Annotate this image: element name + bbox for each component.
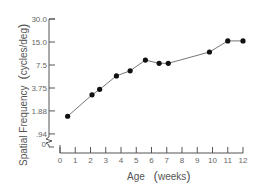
y-tick-label: .94 bbox=[36, 130, 48, 139]
svg-text:Spatial Frequency (cycle: Spatial Frequency (cycles/deg) bbox=[15, 24, 30, 166]
x-tick-label: 8 bbox=[180, 156, 185, 165]
x-tick-label: 9 bbox=[195, 156, 200, 165]
x-tick-label: 10 bbox=[208, 156, 217, 165]
data-point bbox=[128, 68, 133, 73]
y-tick-label: 1.88 bbox=[31, 107, 47, 116]
y-axis-title-unit: cycles/deg bbox=[18, 28, 29, 75]
x-axis-title-close-paren: ) bbox=[186, 168, 190, 183]
y-axis-title: Spatial Frequency (cycles/deg) bbox=[15, 24, 30, 166]
chart: Spatial Frequency (cycles/deg) .941.883.… bbox=[0, 0, 259, 192]
x-tick-label: 12 bbox=[239, 156, 248, 165]
x-tick-label: 4 bbox=[119, 156, 124, 165]
data-point bbox=[65, 114, 70, 119]
data-point bbox=[89, 92, 94, 97]
data-point bbox=[207, 49, 212, 54]
x-tick-label: 6 bbox=[149, 156, 154, 165]
y-tick-label: 15.0 bbox=[31, 38, 47, 47]
data-point bbox=[166, 61, 171, 66]
x-axis: 0123456789101112 bbox=[58, 145, 248, 165]
x-tick-label: 0 bbox=[58, 156, 63, 165]
data-point bbox=[143, 57, 148, 62]
x-tick-label: 1 bbox=[73, 156, 78, 165]
data-point bbox=[225, 38, 230, 43]
axis-break-icon bbox=[46, 137, 54, 147]
x-tick-label: 5 bbox=[134, 156, 139, 165]
y-tick-label: 30.0 bbox=[31, 15, 47, 24]
data-series bbox=[65, 38, 246, 119]
data-point bbox=[97, 87, 102, 92]
data-point bbox=[157, 61, 162, 66]
y-tick-label: 7.5 bbox=[36, 61, 48, 70]
x-axis-title-main: Age bbox=[127, 171, 145, 182]
series-line bbox=[68, 41, 243, 116]
y-axis: .941.883.757.515.030.00 bbox=[31, 15, 55, 149]
x-tick-label: 11 bbox=[224, 156, 233, 165]
data-point bbox=[114, 73, 119, 78]
y-axis-title-main: Spatial Frequency bbox=[18, 85, 29, 166]
y-axis-title-close-paren: ) bbox=[15, 24, 30, 28]
x-axis-title: Age (weeks) bbox=[127, 168, 191, 183]
y-axis-zero-label: 0 bbox=[42, 140, 47, 149]
x-tick-label: 7 bbox=[165, 156, 170, 165]
x-tick-label: 2 bbox=[88, 156, 93, 165]
data-point bbox=[240, 38, 245, 43]
y-tick-label: 3.75 bbox=[31, 84, 47, 93]
x-axis-title-unit: weeks bbox=[157, 171, 186, 182]
x-tick-label: 3 bbox=[104, 156, 109, 165]
